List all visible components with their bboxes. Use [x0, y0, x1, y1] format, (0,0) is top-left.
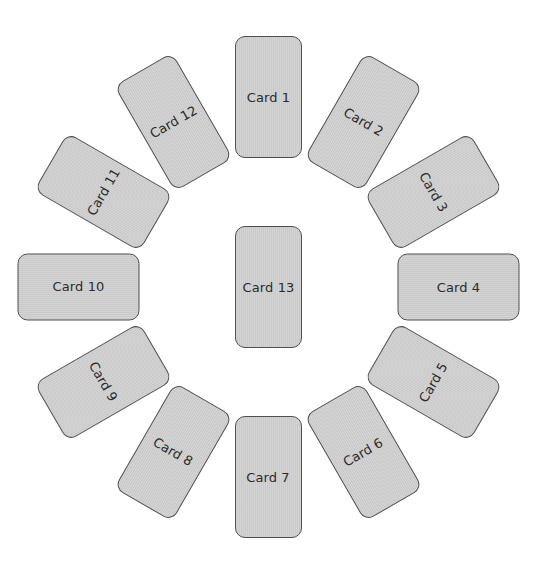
card-circle-diagram: Card 1 Card 2 Card 3 Card 4 Card 5 Card … — [0, 0, 537, 575]
card-11-label: Card 11 — [85, 166, 124, 218]
card-8-label: Card 8 — [151, 434, 196, 469]
card-4-label: Card 4 — [437, 280, 480, 295]
card-7-label: Card 7 — [247, 470, 290, 485]
card-6-label: Card 6 — [341, 434, 386, 469]
card-13-label: Card 13 — [243, 280, 295, 295]
card-2-label: Card 2 — [341, 105, 386, 140]
card-1-label: Card 1 — [247, 90, 290, 105]
card-5-label: Card 5 — [416, 359, 451, 404]
card-9-label: Card 9 — [87, 359, 122, 404]
card-1[interactable]: Card 1 — [235, 36, 302, 158]
card-4[interactable]: Card 4 — [398, 254, 520, 321]
card-13-center[interactable]: Card 13 — [235, 226, 302, 348]
card-12-label: Card 12 — [147, 103, 199, 142]
card-10-label: Card 10 — [53, 280, 105, 295]
card-3-label: Card 3 — [416, 169, 451, 214]
card-7[interactable]: Card 7 — [235, 416, 302, 538]
card-10[interactable]: Card 10 — [18, 254, 140, 321]
